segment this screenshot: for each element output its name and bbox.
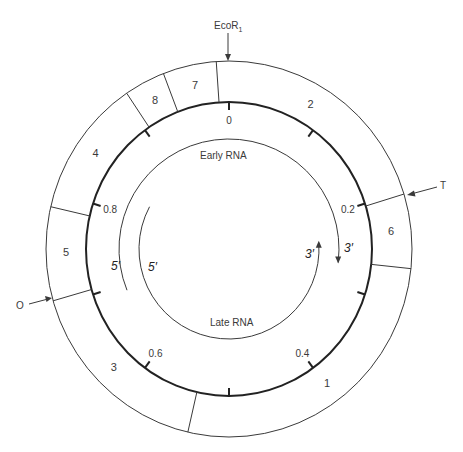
scale-tick (357, 204, 365, 206)
t-arrowhead-icon (407, 191, 416, 197)
scale-tick-label: 0.2 (341, 204, 355, 215)
early-rna-5prime-label: 5′ (111, 259, 121, 273)
late-rna-arrowhead-icon (316, 241, 322, 248)
scale-tick (145, 361, 150, 367)
o-arrowhead-icon (45, 296, 52, 302)
scale-tick-label: 0.6 (149, 348, 163, 359)
t-terminator-marker: T (407, 180, 446, 197)
scale-tick-label: 0 (226, 115, 232, 126)
segment-boundary (127, 93, 149, 127)
segment-label-6: 6 (388, 225, 394, 237)
o-label: O (16, 300, 24, 311)
scale-tick-label: 0.8 (103, 204, 117, 215)
t-arrow-icon (411, 187, 437, 194)
segment-boundary (216, 61, 219, 102)
segment-boundary (371, 264, 411, 268)
ecori-label: EcoR1 (214, 20, 242, 33)
scale-tick (93, 292, 101, 294)
segment-boundary (188, 392, 197, 432)
scale-tick (145, 130, 150, 136)
scale-tick (357, 292, 365, 294)
segment-boundary (366, 194, 404, 206)
segment-boundary (163, 73, 177, 111)
segment-label-8: 8 (152, 94, 158, 106)
segment-label-1: 1 (324, 377, 330, 389)
scale-tick (308, 130, 313, 136)
rna-transcripts (119, 139, 341, 339)
early-rna-label: Early RNA (200, 150, 247, 161)
inner-scale-ring (86, 102, 372, 396)
early-rna-3prime-label: 3′ (344, 241, 354, 255)
segment-label-4: 4 (92, 147, 98, 159)
scale-tick (308, 361, 313, 367)
segment-label-5: 5 (63, 246, 69, 258)
segment-boundary (53, 290, 91, 301)
early-rna-arrowhead-icon (335, 256, 341, 263)
scale-tick (93, 204, 101, 206)
late-rna-label: Late RNA (210, 317, 254, 328)
genetic-map-diagram: 00.20.40.60.8 78453162 EcoR1 T O Early R… (0, 0, 463, 452)
segment-boundary (51, 207, 90, 216)
segment-label-7: 7 (192, 79, 198, 91)
o-arrow-icon (29, 299, 48, 304)
t-label: T (440, 180, 446, 191)
scale-tick-label: 0.4 (296, 348, 310, 359)
inner-scale-ticks: 00.20.40.60.8 (93, 102, 365, 396)
segment-label-3: 3 (111, 361, 117, 373)
o-origin-marker: O (16, 296, 52, 311)
late-rna-3prime-label: 3′ (305, 247, 315, 261)
segment-label-2: 2 (307, 98, 313, 110)
ecori-arrowhead-icon (225, 54, 231, 61)
late-rna-5prime-label: 5′ (148, 260, 158, 274)
ecori-site-marker: EcoR1 (214, 20, 242, 61)
